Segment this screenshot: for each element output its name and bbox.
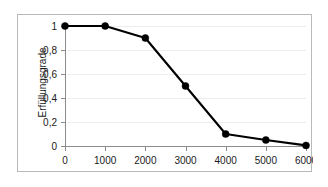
x-tick-label: 5000	[255, 155, 278, 166]
y-tick-label: 1	[51, 21, 57, 32]
y-tick-label: 0,2	[43, 117, 57, 128]
x-tick-label: 4000	[215, 155, 238, 166]
data-point-marker	[62, 23, 69, 30]
gridlines	[65, 27, 306, 123]
x-tick-label: 1000	[94, 155, 117, 166]
y-tick-label: 0,8	[43, 45, 57, 56]
x-tick-label: 3000	[174, 155, 197, 166]
x-axis-tick-labels: 0100020003000400050006000	[62, 155, 313, 166]
data-point-marker	[182, 83, 189, 90]
data-point-marker	[102, 23, 109, 30]
data-point-marker	[142, 35, 149, 42]
chart-frame: Erfüllungsgrade 00,20,40,60,81 010002000…	[17, 14, 312, 172]
y-tick-label: 0	[51, 141, 57, 152]
y-tick-label: 0,6	[43, 69, 57, 80]
x-tick-label: 2000	[134, 155, 157, 166]
y-axis-tick-labels: 00,20,40,60,81	[43, 21, 57, 152]
chart-figure: Erfüllungsgrade 00,20,40,60,81 010002000…	[0, 0, 328, 187]
data-point-marker	[303, 142, 310, 149]
x-tick-label: 6000	[295, 155, 313, 166]
data-point-marker	[222, 131, 229, 138]
plot-area: 00,20,40,60,81 0100020003000400050006000	[18, 15, 313, 173]
data-point-markers	[62, 23, 310, 149]
x-tick-label: 0	[62, 155, 68, 166]
y-tick-label: 0,4	[43, 93, 57, 104]
data-point-marker	[262, 137, 269, 144]
